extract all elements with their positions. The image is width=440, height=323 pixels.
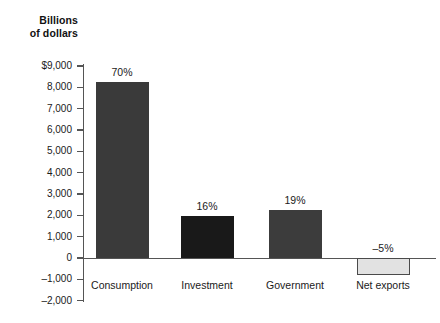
- y-tick-label: 5,000: [0, 146, 72, 156]
- y-tick-label: 0: [0, 253, 72, 263]
- y-tick-label: 1,000: [0, 232, 72, 242]
- y-tick-label: –2,000: [0, 296, 72, 306]
- bar-investment[interactable]: [181, 216, 234, 258]
- bar-value-label: –5%: [353, 243, 413, 254]
- y-tick-label: 6,000: [0, 125, 72, 135]
- y-tick-label: 4,000: [0, 168, 72, 178]
- bar-government[interactable]: [269, 210, 322, 258]
- y-axis-title-line-1: Billions: [0, 14, 78, 27]
- y-tick-label: –1,000: [0, 274, 72, 284]
- y-axis-title: Billions of dollars: [0, 14, 78, 39]
- category-label-investment: Investment: [157, 279, 257, 291]
- y-tick-label: 2,000: [0, 210, 72, 220]
- category-label-government: Government: [245, 279, 345, 291]
- y-tick-label: 3,000: [0, 189, 72, 199]
- category-label-net-exports: Net exports: [333, 279, 433, 291]
- bar-value-label: 70%: [92, 67, 152, 78]
- bar-value-label: 16%: [177, 201, 237, 212]
- bar-net-exports[interactable]: [357, 258, 410, 275]
- bar-chart: Billions of dollars $9,0008,0007,0006,00…: [0, 0, 440, 323]
- y-axis-title-line-2: of dollars: [0, 27, 78, 40]
- bar-value-label: 19%: [265, 195, 325, 206]
- y-tick-label: $9,000: [0, 61, 72, 71]
- bar-consumption[interactable]: [96, 82, 149, 258]
- y-tick-label: 8,000: [0, 82, 72, 92]
- plot-area: 70%Consumption16%Investment19%Government…: [83, 0, 440, 323]
- y-tick-label: 7,000: [0, 104, 72, 114]
